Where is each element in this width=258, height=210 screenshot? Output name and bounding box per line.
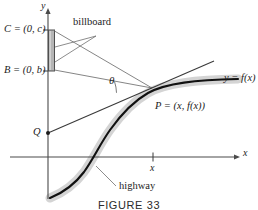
label-axis-x: x [243, 148, 247, 158]
billboard-rect [49, 30, 55, 71]
label-axis-y: y [41, 1, 45, 11]
label-point-c: C = (0, c) [4, 24, 46, 35]
angle-theta-arc [115, 82, 117, 93]
label-curve-equation: y = f(x) [224, 73, 256, 84]
label-point-q: Q [33, 127, 41, 138]
figure-container: C = (0, c) B = (0, b) Q P = (x, f(x)) y … [0, 0, 258, 210]
billboard-leader-line-upper [55, 36, 96, 62]
label-point-p: P = (x, f(x)) [155, 101, 205, 112]
y-axis-arrow-icon [45, 8, 50, 14]
point-q-marker [46, 131, 50, 135]
tangent-line [48, 61, 214, 133]
label-point-b: B = (0, b) [4, 65, 46, 76]
label-highway: highway [119, 181, 155, 192]
label-angle-theta: θ [109, 75, 114, 86]
x-axis-arrow-icon [234, 154, 240, 159]
billboard-leader-line-lower [55, 36, 96, 47]
figure-caption: FIGURE 33 [0, 199, 258, 210]
label-x-tick: x [150, 163, 154, 173]
label-billboard: billboard [73, 17, 111, 28]
highway-leader-line [96, 166, 116, 186]
